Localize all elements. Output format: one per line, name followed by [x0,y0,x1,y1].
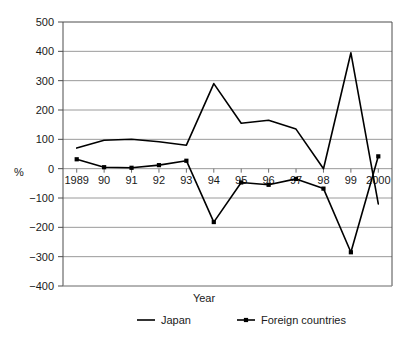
x-axis-label: Year [193,292,216,304]
data-point-foreign-countries [212,220,216,224]
data-point-foreign-countries [102,165,106,169]
y-tick-label: −300 [29,251,54,263]
y-tick-label: −400 [29,280,54,292]
legend-marker-foreign-countries [244,318,248,322]
chart-figure: 5004003002001000−100−200−300−400 1989909… [0,0,408,339]
data-point-foreign-countries [349,250,353,254]
x-tick-label: 90 [98,174,110,186]
x-tick-label: 99 [345,174,357,186]
y-tick-label: 100 [36,133,54,145]
x-tick-label: 91 [125,174,137,186]
x-tick-label: 94 [208,174,220,186]
legend-label-foreign-countries: Foreign countries [261,314,346,326]
x-tick-label: 93 [180,174,192,186]
y-tick-label: −200 [29,221,54,233]
data-point-foreign-countries [239,180,243,184]
data-point-foreign-countries [294,177,298,181]
x-tick-label: 92 [153,174,165,186]
y-tick-label: 300 [36,75,54,87]
data-point-foreign-countries [75,157,79,161]
y-tick-label: −100 [29,192,54,204]
x-tick-label: 98 [317,174,329,186]
y-tick-label: 400 [36,45,54,57]
legend-label-japan: Japan [161,314,191,326]
line-chart: 5004003002001000−100−200−300−400 1989909… [0,0,408,339]
data-point-foreign-countries [129,166,133,170]
y-tick-label: 200 [36,104,54,116]
y-tick-label: 0 [48,163,54,175]
y-tick-label: 500 [36,16,54,28]
data-point-foreign-countries [157,163,161,167]
y-axis-label: % [14,166,24,178]
x-tick-label: 1989 [64,174,88,186]
data-point-foreign-countries [267,183,271,187]
data-point-foreign-countries [321,187,325,191]
data-point-foreign-countries [184,159,188,163]
data-point-foreign-countries [376,154,380,158]
